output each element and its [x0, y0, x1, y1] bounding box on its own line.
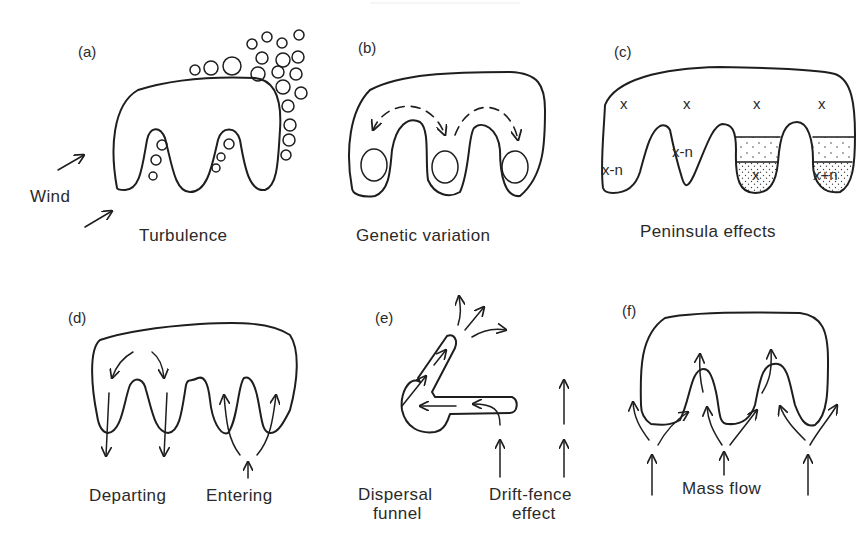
departing-arrow-curve-2 [152, 352, 164, 378]
turbulence-eddies [149, 30, 307, 180]
panel-b-genetic-variation: (b) Genetic variation [349, 39, 545, 245]
landmass-outline [92, 323, 297, 433]
panel-e-caption-funnel: funnel [373, 504, 422, 523]
panel-e-caption-drift-fence: Drift-fence [489, 485, 572, 504]
panel-d-caption-entering: Entering [206, 486, 273, 505]
panel-c-tag: (c) [614, 43, 632, 60]
panel-b-tag: (b) [358, 39, 376, 56]
gene-flow-dashed-arc-right [455, 107, 518, 140]
panel-f-tag: (f) [622, 302, 636, 319]
symbol-x-1: x [620, 95, 628, 112]
landmass-outline [114, 78, 281, 193]
symbol-x-4: x [818, 95, 826, 112]
symbol-x-plus-n: x+n [813, 166, 838, 183]
mass-flow-inland-1 [700, 354, 703, 392]
departing-arrow-2 [164, 393, 167, 456]
panel-b-caption: Genetic variation [356, 226, 490, 245]
panel-f-mass-flow: (f) Mass flow [622, 302, 837, 498]
dispersal-arrow-1 [458, 296, 460, 325]
panel-e-tag: (e) [375, 309, 393, 326]
panel-c-caption: Peninsula effects [640, 222, 776, 241]
symbol-x-3: x [753, 95, 761, 112]
panel-e-caption-effect: effect [512, 504, 556, 523]
panel-a-caption: Turbulence [139, 226, 227, 245]
entering-arrow-2 [257, 395, 276, 455]
wind-arrow-upper [58, 155, 84, 170]
departing-arrow-curve-1 [112, 352, 133, 378]
peninsula-effects-figure: (a) [0, 0, 868, 542]
dispersal-arrow-3 [472, 329, 506, 337]
panel-a-turbulence: (a) [30, 30, 307, 245]
panel-d-departing-entering: (d) Departing Entering [68, 309, 297, 505]
panel-e-caption-dispersal: Dispersal [358, 485, 432, 504]
symbol-x-2: x [683, 95, 691, 112]
landmass-outline [641, 313, 828, 426]
stipple-zone-sparse-1 [736, 137, 780, 162]
mass-flow-split-2b [730, 410, 757, 445]
wind-arrow-lower [85, 211, 112, 227]
panel-d-caption-departing: Departing [89, 486, 166, 505]
mass-flow-split-3a [780, 406, 805, 440]
stipple-zone-sparse-2 [813, 137, 853, 162]
landmass-outline [349, 72, 545, 197]
wind-label: Wind [30, 187, 70, 206]
panel-f-caption: Mass flow [682, 479, 761, 498]
dispersal-arrow-2 [465, 307, 484, 330]
panel-c-peninsula-effects: (c) x x x x x-n x-n x x+n Peninsula effe… [602, 43, 855, 241]
panel-a-tag: (a) [78, 43, 96, 60]
departing-arrow-1 [106, 393, 109, 456]
panel-e-funnel-drift-fence: (e) Dispersal funnel Drift-fence effect [358, 296, 572, 523]
symbol-x-5: x [752, 166, 760, 183]
panel-d-tag: (d) [68, 309, 86, 326]
symbol-x-minus-n-2: x-n [672, 143, 693, 160]
symbol-x-minus-n-1: x-n [602, 161, 623, 178]
mass-flow-split-1b [658, 412, 688, 445]
